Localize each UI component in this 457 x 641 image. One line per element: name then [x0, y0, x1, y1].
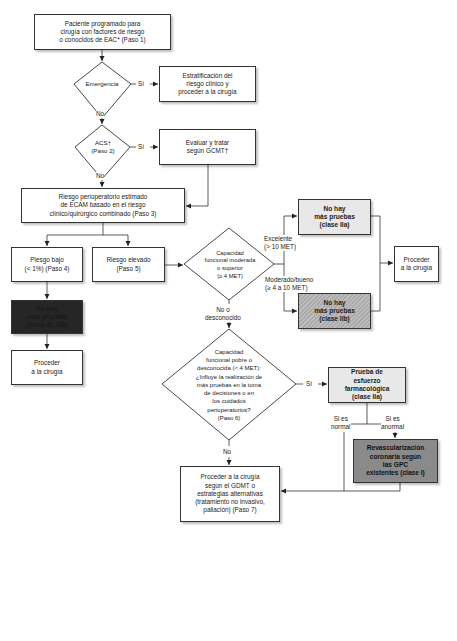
acs-si-label: Sí [138, 143, 144, 151]
excelente-label: Excelente (> 10 MET) [264, 235, 296, 251]
emergencia-decision: Emergencia [76, 76, 128, 92]
no-pruebas-IIb-box: No hay más pruebas (clase IIb) [298, 293, 371, 329]
step7-box: Proceder a la cirugía según el GDMT o es… [180, 466, 280, 522]
riesgo-elevado-box: Riesgo elevado (Paso 5) [92, 247, 165, 282]
si-anormal-label: Si es anormal [381, 415, 404, 431]
step3-box: Riesgo perioperatorio estimado de ECAM b… [21, 188, 185, 223]
emergencia-no-label: No [96, 110, 104, 118]
riesgo-bajo-box: Piesgo bajo (< 1%) (Paso 4) [11, 247, 83, 282]
capacidad-decision: Capacidad funcional moderada o superior … [190, 248, 270, 282]
capacidad-pobre-decision: Capacidad funcional pobre o desconocida … [168, 346, 290, 424]
emergencia-si-label: Sí [138, 80, 144, 88]
no-pruebas-IIa-box: No hay más pruebas (clase IIa) [298, 199, 371, 235]
si-normal-label: Si es normal [331, 415, 351, 431]
moderado-label: Moderado/bueno (≥ 4 a 10 MET) [265, 276, 313, 292]
acs-no-label: No [96, 172, 104, 180]
step1-box: Paciente programado para cirugía con fac… [34, 14, 171, 50]
no-pruebas-III-box: No hay más pruebas (clase III: NB) [11, 300, 83, 334]
proceder-left-box: Proceder a la cirugía [11, 350, 83, 385]
evaluar-box: Evaluar y tratar según GCMT† [159, 129, 256, 165]
revascularizacion-box: Revascularización coronaria según las GP… [353, 439, 438, 483]
paso6-si-label: Sí [306, 380, 312, 388]
prueba-esfuerzo-box: Prueba de esfuerzo farmacológica (clase … [328, 367, 406, 403]
flowchart-canvas: Emergencia ACS† (Paso 2) Capacidad funci… [0, 0, 457, 641]
acs-decision: ACS† (Paso 2) [80, 137, 126, 157]
estratificacion-box: Estratificación del riesgo clínico y pro… [159, 66, 256, 102]
proceder-right-box: Proceder a la cirugía [394, 246, 439, 282]
paso6-no-label: No [223, 448, 231, 456]
no-desconocido-label: No o desconocido [205, 306, 241, 322]
